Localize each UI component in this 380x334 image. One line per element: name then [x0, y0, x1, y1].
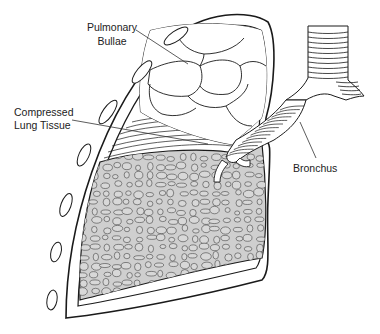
alveolus	[190, 209, 196, 216]
alveolus	[170, 255, 176, 262]
alveolus	[114, 191, 122, 197]
alveolus	[104, 244, 110, 251]
alveolus	[247, 225, 253, 232]
alveolus	[147, 171, 153, 179]
alveolus	[154, 263, 163, 267]
alveolus	[199, 171, 210, 177]
alveolus	[93, 253, 98, 261]
alveolus	[148, 245, 153, 252]
alveolus	[125, 244, 133, 249]
alveolus	[135, 217, 145, 222]
alveolus	[256, 251, 263, 258]
label-lung-tissue: Lung Tissue	[14, 119, 71, 131]
alveolus	[234, 217, 240, 222]
alveolus	[104, 216, 110, 221]
alveolus	[80, 280, 87, 287]
alveolus	[223, 218, 230, 223]
alveolus	[114, 244, 124, 250]
alveolus	[121, 262, 131, 269]
alveolus	[89, 200, 98, 204]
alveolus	[176, 183, 186, 187]
alveolus	[136, 226, 142, 233]
alveolus	[156, 155, 165, 160]
alveolus	[256, 156, 264, 162]
alveolus	[156, 199, 162, 204]
alveolus	[254, 188, 264, 196]
alveolus	[169, 262, 178, 267]
alveolus	[122, 163, 131, 170]
alveolus	[104, 272, 111, 276]
alveolus	[244, 247, 252, 252]
alveolus	[192, 200, 199, 207]
alveolus	[257, 281, 265, 287]
alveolus	[123, 237, 130, 243]
alveolus	[112, 236, 121, 240]
alveolus	[190, 190, 198, 195]
alveolus	[169, 243, 177, 248]
alveolus	[236, 190, 242, 195]
alveolus	[169, 220, 179, 225]
alveolus	[136, 237, 142, 242]
alveolus	[222, 200, 230, 205]
lung-diagram: Pulmonary Bullae Compressed Lung Tissue …	[0, 0, 380, 334]
alveolus	[159, 216, 166, 221]
alveolus	[258, 225, 264, 231]
alveolus	[236, 244, 241, 249]
alveolus	[178, 172, 188, 180]
alveolus	[159, 191, 165, 196]
alveolus	[148, 162, 154, 170]
alveolus	[214, 182, 221, 190]
alveolus	[157, 165, 166, 171]
alveolus	[112, 225, 122, 231]
alveolus	[201, 209, 211, 213]
alveolus	[101, 210, 111, 214]
alveolus	[243, 190, 254, 197]
alveolus	[255, 174, 262, 178]
alveolus	[167, 156, 175, 161]
alveolus	[143, 155, 154, 160]
alveolus	[124, 172, 129, 178]
alveolus	[158, 270, 163, 277]
alveolus	[93, 191, 100, 196]
alveolus	[92, 208, 97, 215]
alveolus	[124, 253, 130, 258]
alveolus	[92, 226, 97, 232]
alveolus	[126, 191, 132, 196]
alveolus	[113, 198, 122, 205]
alveolus	[191, 153, 196, 161]
alveolus	[221, 227, 231, 234]
alveolus	[189, 245, 197, 251]
alveolus	[101, 254, 111, 259]
alveolus	[222, 290, 233, 296]
alveolus	[258, 291, 264, 296]
alveolus	[212, 154, 222, 161]
alveolus	[193, 229, 200, 233]
alveolus	[233, 227, 242, 231]
alveolus	[202, 262, 213, 268]
alveolus	[99, 263, 110, 267]
alveolus	[221, 191, 229, 195]
alveolus	[146, 271, 157, 276]
alveolus	[114, 252, 120, 259]
alveolus	[182, 246, 188, 251]
alveolus	[232, 181, 241, 189]
alveolus	[112, 269, 120, 276]
alveolus	[176, 162, 185, 169]
alveolus	[135, 273, 141, 277]
alveolus	[257, 244, 264, 252]
alveolus	[191, 181, 198, 186]
alveolus	[113, 218, 121, 225]
alveolus	[234, 290, 243, 298]
alveolus	[92, 288, 100, 293]
alveolus	[213, 199, 221, 206]
alveolus	[225, 182, 231, 187]
alveolus	[221, 235, 229, 240]
alveolus	[235, 253, 241, 259]
alveolus	[190, 173, 199, 180]
alveolus	[135, 243, 143, 251]
alveolus	[189, 216, 199, 223]
alveolus	[137, 208, 144, 215]
alveolus	[122, 280, 132, 285]
alveolus	[124, 227, 129, 231]
alveolus	[178, 235, 188, 242]
